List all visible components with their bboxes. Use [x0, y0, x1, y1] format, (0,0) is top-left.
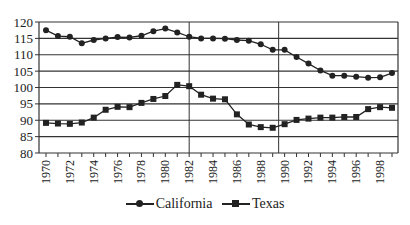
- svg-text:1986: 1986: [230, 160, 244, 184]
- svg-text:105: 105: [14, 64, 34, 79]
- svg-text:110: 110: [14, 47, 33, 62]
- line-chart: 80859095100105110115120 1970197219741976…: [0, 0, 410, 195]
- square-marker-line-icon: [222, 199, 250, 209]
- svg-text:1988: 1988: [254, 160, 268, 184]
- svg-text:1996: 1996: [349, 160, 363, 184]
- svg-text:1998: 1998: [373, 160, 387, 184]
- circle-marker-line-icon: [126, 199, 154, 209]
- svg-text:80: 80: [20, 146, 33, 161]
- svg-text:1976: 1976: [111, 160, 125, 184]
- svg-text:95: 95: [20, 96, 33, 111]
- svg-text:1980: 1980: [158, 160, 172, 184]
- svg-text:1970: 1970: [39, 160, 53, 184]
- legend: California Texas: [0, 196, 410, 213]
- legend-item-california: California: [126, 196, 213, 212]
- svg-text:1994: 1994: [325, 160, 339, 184]
- svg-text:90: 90: [20, 113, 33, 128]
- svg-text:100: 100: [14, 80, 34, 95]
- svg-text:1992: 1992: [301, 160, 315, 184]
- svg-text:1984: 1984: [206, 160, 220, 184]
- svg-text:115: 115: [14, 31, 33, 46]
- svg-text:1972: 1972: [63, 160, 77, 184]
- svg-text:1978: 1978: [134, 160, 148, 184]
- x-axis: 1970197219741976197819801982198419861988…: [39, 153, 392, 184]
- svg-text:1982: 1982: [182, 160, 196, 184]
- svg-text:1990: 1990: [278, 160, 292, 184]
- legend-label: California: [156, 196, 213, 212]
- legend-item-texas: Texas: [222, 196, 284, 212]
- svg-text:1974: 1974: [87, 160, 101, 184]
- legend-label: Texas: [252, 196, 284, 212]
- svg-text:120: 120: [14, 15, 34, 30]
- y-axis: 80859095100105110115120: [14, 15, 40, 161]
- data-series: [43, 26, 395, 131]
- svg-text:85: 85: [20, 129, 33, 144]
